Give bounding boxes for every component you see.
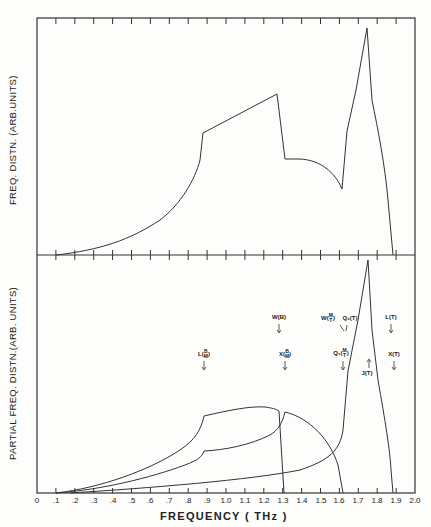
x-tick-6: .6 xyxy=(147,496,154,505)
annotation-q2-t: Q₂(T) xyxy=(343,315,358,322)
bottom-y-axis-label: PARTIAL FREQ. DISTN.(ARB. UNITS) xyxy=(7,287,18,460)
x-tick-16: 1.6 xyxy=(333,496,344,505)
x-tick-9: .9 xyxy=(204,496,211,505)
annotation-l-bm: L(BM) xyxy=(198,349,210,359)
annotation-j-t: J(T) xyxy=(362,370,373,377)
total-distribution-curve xyxy=(56,28,393,255)
branch-t-curve xyxy=(70,260,393,493)
x-tick-3: .3 xyxy=(91,496,98,505)
annotation-q1-mt: Q₁(MT) xyxy=(333,348,348,358)
x-tick-7: .7 xyxy=(166,496,173,505)
chart-canvas xyxy=(0,0,431,527)
x-tick-15: 1.5 xyxy=(315,496,326,505)
annotation-arrows xyxy=(202,324,396,370)
x-tick-1: .1 xyxy=(53,496,60,505)
annotation-w-b: W(B) xyxy=(272,314,286,321)
x-tick-19: 1.9 xyxy=(390,496,401,505)
branch-b-curve xyxy=(56,407,284,493)
x-tick-11: 1.1 xyxy=(239,496,250,505)
x-axis-label: FREQUENCY ( THz ) xyxy=(160,510,288,522)
x-tick-0: 0 xyxy=(35,496,39,505)
x-tick-18: 1.8 xyxy=(371,496,382,505)
x-tick-2: .2 xyxy=(72,496,79,505)
x-tick-10: 1.0 xyxy=(220,496,231,505)
x-tick-12: 1.2 xyxy=(258,496,269,505)
x-tick-14: 1.4 xyxy=(296,496,307,505)
x-tick-4: .4 xyxy=(110,496,117,505)
annotation-l-t: L(T) xyxy=(385,314,396,321)
annotation-x-bm: X(BM) xyxy=(279,349,291,359)
x-tick-17: 1.7 xyxy=(352,496,363,505)
x-tick-5: .5 xyxy=(129,496,136,505)
branch-m-curve xyxy=(56,412,343,493)
x-tick-8: .8 xyxy=(185,496,192,505)
top-y-axis-label: FREQ. DISTN. (ARB.UNITS) xyxy=(7,75,18,205)
x-tick-13: 1.3 xyxy=(277,496,288,505)
annotation-w-mt: W(MT) xyxy=(321,313,335,323)
annotation-x-t: X(T) xyxy=(388,351,400,358)
x-tick-20: 2.0 xyxy=(409,496,420,505)
